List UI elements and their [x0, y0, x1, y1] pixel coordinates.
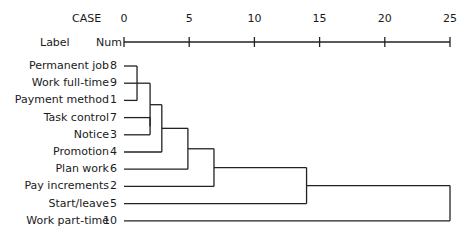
dendrogram — [0, 0, 469, 243]
